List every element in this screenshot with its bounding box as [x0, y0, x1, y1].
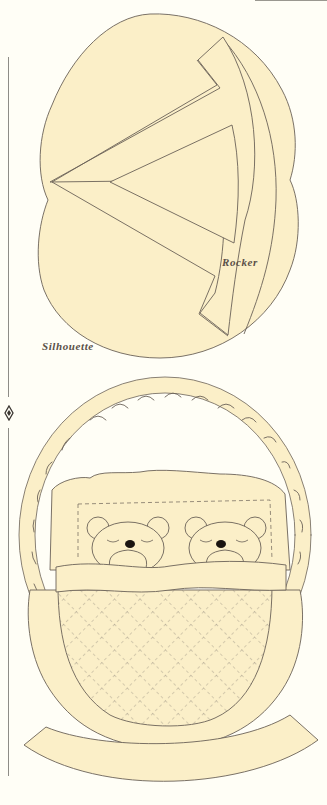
basket-bears-pattern [0, 0, 327, 805]
pattern-page: Rocker Silhouette [0, 0, 327, 805]
